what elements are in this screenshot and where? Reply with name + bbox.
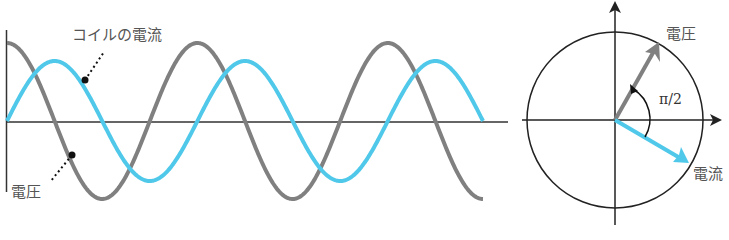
current-leader-dot xyxy=(82,77,89,84)
current-leader-line xyxy=(85,52,104,80)
phasor-current-label: 電流 xyxy=(693,167,723,182)
phase-angle-label: π/2 xyxy=(659,92,682,106)
voltage-wave-label: 電圧 xyxy=(11,185,41,200)
voltage-leader-dot xyxy=(69,152,76,159)
current-wave-label: コイルの電流 xyxy=(72,28,162,43)
voltage-wave xyxy=(7,43,483,199)
voltage-leader-line xyxy=(50,155,72,182)
phasor-voltage-label: 電圧 xyxy=(666,27,696,42)
current-phasor xyxy=(615,120,680,158)
